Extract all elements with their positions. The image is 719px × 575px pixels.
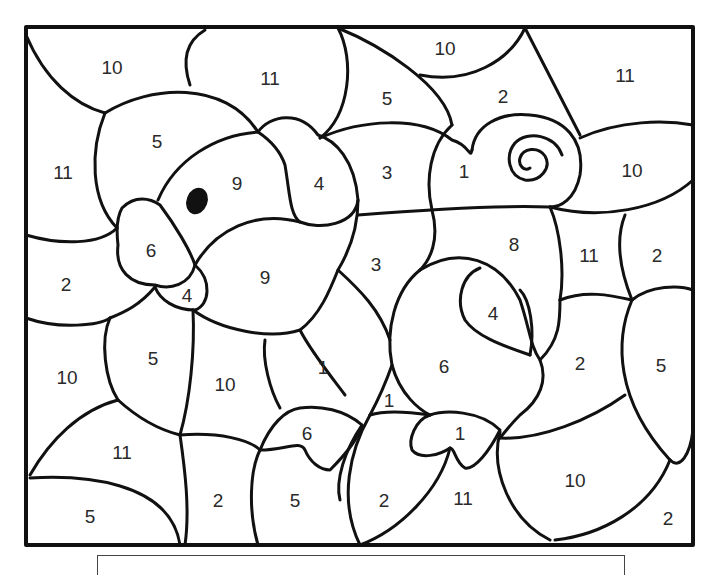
region-number-r32[interactable]: 1 [455,424,466,443]
region-number-r5[interactable]: 5 [382,89,393,108]
region-number-r23[interactable]: 5 [148,349,159,368]
region-number-r19[interactable]: 9 [260,268,271,287]
snail-spiral [509,136,562,180]
region-number-r30[interactable]: 1 [384,391,395,410]
region-number-r18[interactable]: 2 [61,275,72,294]
region-number-r34[interactable]: 10 [564,471,585,490]
region-number-r25[interactable]: 10 [214,375,235,394]
region-number-r2[interactable]: 11 [260,69,280,88]
region-number-r36[interactable]: 5 [290,491,301,510]
region-number-r10[interactable]: 4 [314,174,325,193]
region-number-r14[interactable]: 6 [146,241,157,260]
region-number-r8[interactable]: 11 [53,163,73,182]
region-number-r6[interactable]: 2 [498,87,509,106]
region-number-r33[interactable]: 11 [112,443,132,462]
answer-box-outline [97,555,625,575]
region-number-r35[interactable]: 2 [213,491,224,510]
region-number-r37[interactable]: 2 [379,491,390,510]
region-number-r20[interactable]: 3 [371,255,382,274]
region-number-r15[interactable]: 8 [509,235,520,254]
region-number-r24[interactable]: 10 [56,368,77,387]
region-number-r38[interactable]: 11 [453,489,473,508]
region-number-r26[interactable]: 1 [318,358,329,377]
region-number-r31[interactable]: 6 [302,424,313,443]
region-number-r28[interactable]: 2 [575,354,586,373]
picture-frame [26,27,693,545]
region-number-r4[interactable]: 11 [615,66,635,85]
region-number-r11[interactable]: 3 [382,163,393,182]
region-number-r17[interactable]: 2 [652,246,663,265]
region-number-r22[interactable]: 4 [488,304,499,323]
region-number-r9[interactable]: 9 [232,174,243,193]
region-number-r12[interactable]: 1 [459,162,470,181]
region-number-r21[interactable]: 4 [182,286,193,305]
region-number-r27[interactable]: 6 [439,357,450,376]
region-number-r40[interactable]: 2 [663,509,674,528]
dog-eye [184,187,209,216]
region-number-r3[interactable]: 10 [434,39,455,58]
region-number-r7[interactable]: 5 [152,132,163,151]
region-number-r1[interactable]: 10 [101,58,122,77]
region-number-r16[interactable]: 11 [579,246,599,265]
region-number-r29[interactable]: 5 [656,356,667,375]
region-number-r39[interactable]: 5 [85,507,96,526]
region-number-r13[interactable]: 10 [621,161,642,180]
